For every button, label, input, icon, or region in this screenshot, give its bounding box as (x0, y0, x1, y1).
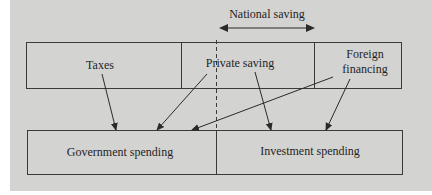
foreign-financing-label-line1: Foreign (330, 48, 400, 61)
arrow-foreign-to-government (192, 77, 333, 130)
flow-diagram (0, 0, 432, 195)
foreign-financing-label-line2: financing (330, 63, 400, 76)
national-saving-label: National saving (218, 8, 316, 21)
arrow-foreign-to-investment (326, 79, 350, 130)
arrow-taxes-to-government (102, 74, 116, 130)
national-saving-double-arrow (219, 24, 315, 32)
investment-spending-label: Investment spending (250, 145, 370, 158)
private-saving-label: Private saving (200, 57, 280, 70)
government-spending-label: Government spending (60, 146, 180, 159)
taxes-label: Taxes (70, 59, 130, 72)
